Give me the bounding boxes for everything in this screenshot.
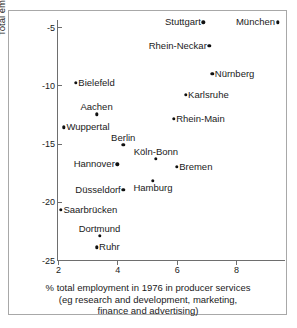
- data-point-label: Dortmund: [79, 224, 121, 234]
- x-axis-tick-label: 2: [56, 265, 61, 275]
- data-point-label: Köln-Bonn: [134, 147, 178, 157]
- data-point-label: Saarbrücken: [63, 205, 117, 215]
- scatter-plot-figure: -5-10-15-20-25 2468 Total employment cha…: [0, 0, 297, 328]
- y-axis-tick-label: -15: [42, 140, 55, 149]
- data-point-label: Nürnberg: [215, 69, 255, 79]
- data-point-label: Aachen: [80, 102, 112, 112]
- y-axis-tick-label: -5: [47, 23, 55, 32]
- data-point-label: Rhein-Main: [176, 114, 225, 124]
- y-axis-tick-label: -25: [42, 256, 55, 265]
- x-axis-caption-line-2: (eg research and development, marketing,: [12, 294, 284, 306]
- data-point-label: Wuppertal: [66, 122, 109, 132]
- data-point-label: Hannover: [74, 159, 115, 169]
- x-axis-caption-line-3: finance and advertising): [12, 305, 284, 317]
- x-axis-tick-label: 8: [234, 265, 239, 275]
- y-axis-title: Total employment change 1976-1986: [0, 0, 7, 36]
- x-axis-tick-label: 4: [115, 265, 120, 275]
- data-point-label: Karlsruhe: [188, 90, 229, 100]
- x-axis-tick-label-wrap: 6: [177, 261, 178, 265]
- y-axis-tick-label: -20: [42, 198, 55, 207]
- data-point-label: Ruhr: [99, 242, 120, 252]
- x-axis-tick-label: 6: [175, 265, 180, 275]
- x-axis-tick-label-wrap: 8: [236, 261, 237, 265]
- data-point-label: Düsseldorf: [75, 185, 120, 195]
- data-point-label: Bielefeld: [78, 78, 114, 88]
- data-point-label: Hamburg: [133, 183, 172, 193]
- data-point-label: Rhein-Neckar: [149, 41, 207, 51]
- x-axis-tick-label-wrap: 4: [117, 261, 118, 265]
- data-point-label: Bremen: [179, 162, 212, 172]
- y-axis-tick-label: -10: [42, 81, 55, 90]
- data-point-label: Berlin: [111, 133, 135, 143]
- x-axis-caption-line-1: % total employment in 1976 in producer s…: [12, 282, 284, 294]
- x-axis-tick-label-wrap: 2: [58, 261, 59, 265]
- x-axis-caption: % total employment in 1976 in producer s…: [12, 282, 284, 317]
- data-point-label: Stuttgart: [165, 17, 201, 27]
- data-point-label: München: [236, 17, 275, 27]
